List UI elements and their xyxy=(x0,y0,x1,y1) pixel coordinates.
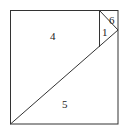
region-label-4: 4 xyxy=(50,30,56,42)
region-label-5: 5 xyxy=(62,98,68,110)
diagram-canvas: 4 1 6 5 xyxy=(0,0,128,135)
region-label-1: 1 xyxy=(102,26,108,38)
region-label-6: 6 xyxy=(109,14,115,26)
